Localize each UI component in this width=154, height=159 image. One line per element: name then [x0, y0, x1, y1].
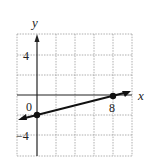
x-tick-8: 8	[109, 101, 115, 115]
y-axis-arrow-icon	[35, 34, 40, 42]
y-tick-4: 4	[23, 49, 29, 63]
coordinate-plane: y x 0 8 4 −4	[0, 0, 154, 159]
point-8-0	[110, 93, 116, 99]
point-0-neg2	[34, 112, 40, 118]
y-axis-label: y	[30, 15, 38, 30]
x-axis-label: x	[137, 88, 144, 103]
y-tick-neg4: −4	[16, 129, 29, 143]
origin-label: 0	[26, 100, 32, 114]
